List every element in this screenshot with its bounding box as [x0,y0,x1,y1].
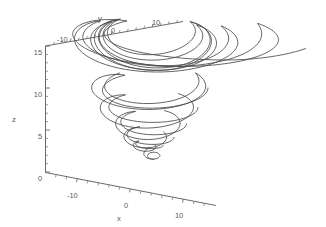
x-tick-10-text: 10 [175,211,183,220]
z-axis-title: z [12,108,16,126]
y-tick-neg10-text: -10 [57,35,68,44]
x-axis-ticks [56,175,205,207]
conical-spiral-tip [144,148,160,160]
x-axis-title: x [117,207,121,225]
y-tick-label-0: 0 [111,19,115,37]
z-tick-label-5: 5 [24,125,42,143]
y-axis-title: y [98,7,102,25]
z-tick-label-10: 10 [24,83,42,101]
conical-spiral-small-coils [116,111,187,140]
z-axis-ticks [46,46,51,172]
x-tick-neg10-text: -10 [67,191,78,200]
axis-z [46,46,51,173]
z-tick-label-15: 15 [24,41,42,59]
y-tick-10-text: 10 [152,18,160,27]
y-axis-title-text: y [98,14,102,23]
x-tick-0-text: 0 [124,201,128,210]
parametric-3d-plot: 15 10 5 0 z -10 0 10 y -10 [0,0,326,227]
x-axis-title-text: x [117,214,121,223]
z-tick-label-0: 0 [24,167,42,185]
conical-spiral-curve [73,19,306,72]
x-tick-label-10: 10 [175,204,183,222]
conical-spiral-inner-coils [92,73,208,110]
plot-canvas [0,0,326,227]
z-axis-title-text: z [12,115,16,124]
z-tick-5-text: 5 [38,132,42,141]
z-tick-10-text: 10 [34,90,42,99]
z-tick-15-text: 15 [34,48,42,57]
x-tick-label-neg10: -10 [67,184,78,202]
x-tick-label-0: 0 [124,194,128,212]
y-tick-0-text: 0 [111,26,115,35]
z-tick-0-text: 0 [38,174,42,183]
conical-spiral-lower-coils [100,94,198,128]
y-tick-label-10: 10 [152,11,160,29]
y-tick-label-neg10: -10 [57,28,68,46]
